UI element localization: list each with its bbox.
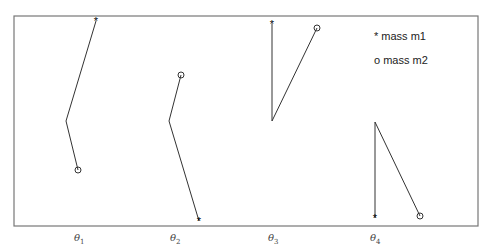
legend-m1: * mass m1 — [374, 30, 426, 42]
plot-frame — [14, 16, 478, 226]
theta-label-3: θ3 — [268, 232, 279, 246]
configuration-theta-3: * — [270, 18, 320, 121]
mass-m1-marker: * — [94, 15, 99, 27]
legend-m2: o mass m2 — [374, 54, 428, 66]
theta-label-1: θ1 — [74, 232, 85, 246]
configuration-theta-4: * — [373, 122, 423, 224]
mass-m1-marker: * — [270, 18, 275, 30]
mass-m1-marker: * — [373, 212, 378, 224]
configuration-theta-1: * — [66, 15, 99, 173]
configuration-theta-2: * — [169, 72, 202, 227]
theta-label-2: θ2 — [170, 232, 181, 246]
mass-m1-marker: * — [197, 215, 202, 227]
theta-label-4: θ4 — [370, 232, 381, 246]
